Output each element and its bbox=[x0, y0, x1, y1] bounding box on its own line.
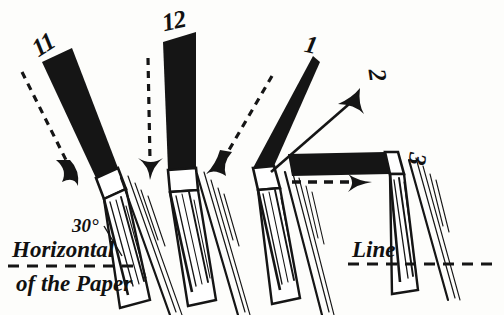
label-of-the-paper: of the Paper bbox=[16, 272, 132, 295]
arrow-11-head bbox=[56, 160, 78, 186]
arrow-12 bbox=[148, 58, 150, 160]
label-line: Line bbox=[352, 238, 395, 261]
arrow-1-head bbox=[206, 150, 232, 176]
pen-3 bbox=[288, 152, 418, 294]
label-horizontal: Horizontal bbox=[12, 238, 114, 261]
figure-canvas: 11 12 1 2 3 30° Horizontal of the Paper … bbox=[0, 0, 504, 315]
arrow-12-head bbox=[138, 158, 163, 180]
pen-12 bbox=[163, 32, 216, 306]
pen-12-body bbox=[163, 32, 196, 170]
arrow-3-head bbox=[348, 174, 372, 192]
pen-12-ferrule bbox=[168, 168, 198, 192]
pen-11 bbox=[42, 48, 150, 308]
label-clock-12: 12 bbox=[160, 6, 188, 35]
label-angle-30-degrees: 30° bbox=[72, 216, 99, 235]
pen-1-body bbox=[253, 56, 320, 168]
pen-3-body bbox=[288, 152, 390, 176]
label-clock-3: 3 bbox=[405, 151, 431, 165]
pen-11-body bbox=[42, 48, 118, 178]
